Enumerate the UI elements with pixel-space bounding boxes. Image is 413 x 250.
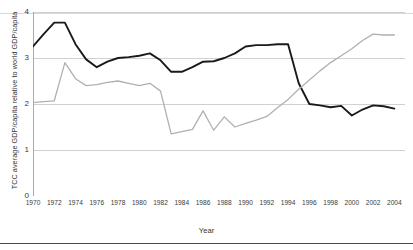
bottom-divider-rule xyxy=(0,243,413,244)
gridlines xyxy=(33,12,405,196)
x-axis-tick-labels: 1970197219741976197819801982198419861988… xyxy=(0,199,413,213)
series-line-dark-line xyxy=(33,23,394,116)
x-axis-title: Year xyxy=(0,226,413,235)
y-tick-label: 4 xyxy=(13,7,29,16)
x-tick-label: 2004 xyxy=(382,199,406,206)
series-lines xyxy=(33,23,394,134)
chart-figure: TCC average GDP/capita relative to world… xyxy=(0,0,413,250)
chart-svg xyxy=(33,12,405,196)
y-tick-label: 3 xyxy=(13,53,29,62)
y-tick-label: 1 xyxy=(13,145,29,154)
y-tick-label: 2 xyxy=(13,99,29,108)
plot-area xyxy=(33,12,405,196)
series-line-gray-line xyxy=(33,34,394,134)
